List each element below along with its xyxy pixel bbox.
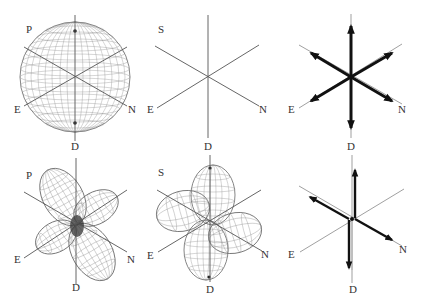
panel-p-quadrant: P E N D bbox=[14, 158, 135, 293]
label-d: D bbox=[71, 140, 79, 152]
label-d: D bbox=[72, 281, 80, 293]
label-d: D bbox=[206, 283, 214, 295]
panel-s-quadrant: S E N D bbox=[147, 155, 269, 295]
label-n: N bbox=[398, 103, 406, 115]
label-e: E bbox=[288, 103, 295, 115]
label-e: E bbox=[147, 249, 154, 261]
panel-force-double-couple: E N D bbox=[288, 155, 407, 295]
label-n: N bbox=[128, 103, 136, 115]
label-n: N bbox=[127, 253, 135, 265]
panel-force-explosion: E N D bbox=[288, 14, 406, 152]
panel-p-sphere: P E N D bbox=[14, 15, 136, 152]
radiation-pattern-figure: P E N D S E N D E N D bbox=[0, 0, 423, 306]
label-p: P bbox=[26, 23, 32, 35]
axis-east bbox=[24, 190, 127, 258]
label-n: N bbox=[261, 248, 269, 260]
label-d: D bbox=[347, 140, 355, 152]
label-e: E bbox=[288, 248, 295, 260]
s-lobes bbox=[152, 165, 267, 280]
label-n: N bbox=[259, 103, 267, 115]
axis-north bbox=[24, 192, 127, 252]
force-arrows bbox=[310, 170, 392, 268]
p-lobes bbox=[29, 160, 124, 289]
label-n: N bbox=[399, 243, 407, 255]
label-d: D bbox=[349, 283, 357, 295]
panel-s-none: S E N D bbox=[147, 15, 267, 152]
force-arrows bbox=[311, 26, 392, 128]
label-d: D bbox=[204, 140, 212, 152]
label-p: P bbox=[26, 169, 32, 181]
label-s: S bbox=[158, 23, 164, 35]
label-s: S bbox=[158, 166, 164, 178]
label-e: E bbox=[14, 253, 21, 265]
label-e: E bbox=[147, 103, 154, 115]
label-e: E bbox=[14, 103, 21, 115]
